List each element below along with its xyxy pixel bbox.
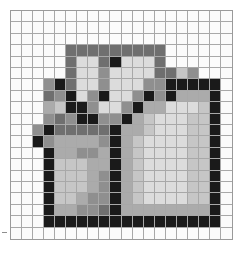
- grid-cell: [133, 125, 144, 136]
- grid-cell: [77, 228, 88, 239]
- grid-cell: [88, 45, 99, 56]
- grid-cell: [144, 79, 155, 90]
- grid-cell: [77, 45, 88, 56]
- grid-cell: [221, 182, 232, 193]
- grid-cell: [199, 45, 210, 56]
- grid-cell: [210, 228, 221, 239]
- grid-cell: [221, 34, 232, 45]
- grid-cell: [122, 45, 133, 56]
- grid-cell: [110, 45, 121, 56]
- grid-cell: [199, 182, 210, 193]
- grid-cell: [221, 228, 232, 239]
- grid-cell: [177, 45, 188, 56]
- grid-cell: [55, 216, 66, 227]
- grid-cell: [177, 91, 188, 102]
- grid-cell: [122, 136, 133, 147]
- grid-cell: [66, 68, 77, 79]
- grid-cell: [110, 114, 121, 125]
- grid-cell: [77, 79, 88, 90]
- pixel-grid-container: [10, 10, 233, 240]
- grid-cell: [166, 45, 177, 56]
- grid-cell: [11, 57, 22, 68]
- grid-cell: [133, 45, 144, 56]
- grid-cell: [99, 91, 110, 102]
- grid-cell: [199, 68, 210, 79]
- grid-cell: [55, 159, 66, 170]
- grid-cell: [66, 22, 77, 33]
- grid-cell: [199, 228, 210, 239]
- grid-cell: [221, 68, 232, 79]
- grid-cell: [122, 125, 133, 136]
- grid-cell: [55, 136, 66, 147]
- grid-cell: [66, 11, 77, 22]
- grid-cell: [177, 182, 188, 193]
- grid-cell: [155, 114, 166, 125]
- grid-cell: [77, 11, 88, 22]
- grid-cell: [44, 193, 55, 204]
- grid-cell: [144, 205, 155, 216]
- grid-cell: [144, 182, 155, 193]
- grid-cell: [33, 136, 44, 147]
- grid-cell: [155, 45, 166, 56]
- grid-cell: [221, 125, 232, 136]
- grid-cell: [11, 205, 22, 216]
- grid-cell: [33, 228, 44, 239]
- grid-cell: [99, 148, 110, 159]
- grid-cell: [210, 34, 221, 45]
- grid-cell: [11, 68, 22, 79]
- grid-cell: [77, 159, 88, 170]
- grid-cell: [188, 91, 199, 102]
- grid-cell: [55, 45, 66, 56]
- grid-cell: [66, 205, 77, 216]
- grid-cell: [66, 216, 77, 227]
- grid-cell: [210, 148, 221, 159]
- grid-cell: [188, 148, 199, 159]
- grid-cell: [22, 22, 33, 33]
- grid-cell: [133, 148, 144, 159]
- grid-cell: [22, 136, 33, 147]
- grid-cell: [133, 216, 144, 227]
- grid-cell: [155, 171, 166, 182]
- grid-cell: [199, 102, 210, 113]
- grid-cell: [188, 79, 199, 90]
- grid-cell: [188, 182, 199, 193]
- grid-cell: [77, 125, 88, 136]
- grid-cell: [177, 171, 188, 182]
- grid-cell: [210, 216, 221, 227]
- grid-cell: [22, 34, 33, 45]
- grid-cell: [110, 22, 121, 33]
- grid-cell: [110, 216, 121, 227]
- grid-cell: [177, 159, 188, 170]
- grid-cell: [99, 205, 110, 216]
- grid-cell: [88, 171, 99, 182]
- grid-cell: [199, 205, 210, 216]
- grid-cell: [133, 228, 144, 239]
- grid-cell: [66, 148, 77, 159]
- grid-cell: [199, 91, 210, 102]
- grid-cell: [11, 102, 22, 113]
- grid-cell: [210, 68, 221, 79]
- grid-cell: [144, 193, 155, 204]
- grid-cell: [44, 34, 55, 45]
- grid-cell: [33, 205, 44, 216]
- grid-cell: [166, 182, 177, 193]
- grid-cell: [155, 125, 166, 136]
- grid-cell: [144, 102, 155, 113]
- grid-cell: [33, 125, 44, 136]
- grid-cell: [88, 114, 99, 125]
- grid-cell: [66, 228, 77, 239]
- grid-cell: [110, 34, 121, 45]
- grid-cell: [66, 182, 77, 193]
- grid-cell: [66, 79, 77, 90]
- grid-cell: [155, 102, 166, 113]
- grid-cell: [221, 136, 232, 147]
- grid-cell: [110, 148, 121, 159]
- grid-cell: [155, 136, 166, 147]
- grid-cell: [33, 148, 44, 159]
- grid-cell: [166, 148, 177, 159]
- grid-cell: [99, 68, 110, 79]
- grid-cell: [177, 102, 188, 113]
- grid-cell: [22, 159, 33, 170]
- grid-cell: [133, 102, 144, 113]
- grid-cell: [166, 159, 177, 170]
